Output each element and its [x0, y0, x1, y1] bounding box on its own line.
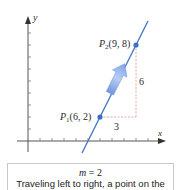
point-p2	[133, 42, 138, 47]
label-p1: P1(6, 2)	[59, 111, 91, 124]
x-axis-arrow-icon	[158, 138, 166, 144]
x-axis: x	[17, 128, 166, 144]
y-axis: y	[25, 12, 38, 152]
point-p1	[97, 114, 102, 119]
run-label: 3	[114, 121, 119, 132]
x-axis-label: x	[157, 128, 162, 138]
slope-diagram: y x P1(6, 2) P2(9, 8	[0, 0, 178, 165]
slope-equation: m = 2	[8, 167, 173, 178]
caption-text: Traveling left to right, a point on the	[8, 178, 173, 190]
rise-label: 6	[139, 76, 144, 87]
y-axis-label: y	[32, 12, 38, 23]
direction-arrow-icon	[103, 60, 132, 97]
caption-box: m = 2 Traveling left to right, a point o…	[7, 163, 174, 190]
y-axis-arrow-icon	[25, 16, 31, 24]
label-p2: P2(9, 8)	[98, 38, 130, 51]
